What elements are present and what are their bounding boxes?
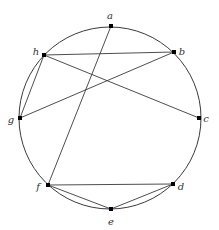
vertex-e [109,207,113,211]
vertex-label-f: f [35,181,42,192]
vertex-g [18,116,22,120]
vertex-label-a: a [107,10,113,21]
outer-circle [19,27,201,209]
vertex-label-d: d [178,181,184,192]
vertex-f [46,183,50,187]
edge-f-d [48,184,173,185]
vertex-label-b: b [179,46,185,57]
labels-group: abcdefgh [8,10,209,227]
vertex-label-g: g [8,114,14,125]
edge-h-g [20,55,44,118]
vertex-a [109,24,113,28]
edge-h-c [44,55,199,118]
vertex-d [171,182,175,186]
vertex-label-c: c [203,113,209,124]
vertex-label-e: e [108,216,114,227]
edge-e-d [111,184,173,209]
vertex-b [172,50,176,54]
vertices-group [18,24,201,211]
edge-a-f [48,26,111,185]
vertex-label-h: h [33,46,39,57]
circle-graph-diagram: abcdefgh [0,0,219,230]
edge-f-e [48,185,111,209]
vertex-h [42,53,46,57]
vertex-c [197,116,201,120]
edge-h-b [44,52,174,55]
